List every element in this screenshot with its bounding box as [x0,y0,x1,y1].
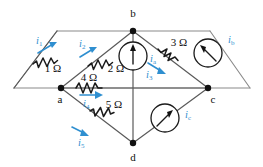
current-source-ic[interactable] [151,104,179,132]
current-label-i5: i5 [78,137,85,150]
node-label-b: b [130,7,136,19]
node-dot-b [130,28,136,34]
current-label-i1: i1 [36,35,43,48]
current-arrow-i5 [72,127,89,136]
node-dot-d [130,140,136,146]
node-dot-c [205,85,211,91]
node-label-a: a [58,93,63,105]
resistor-3ohm [158,49,178,61]
source-label-ib: ib [228,34,235,47]
current-label-i2: i2 [79,38,86,51]
circuit-diagram: b a c d 1 Ω 2 Ω 3 Ω 4 Ω 5 Ω i1 i2 i3 i4 … [0,0,263,167]
resistor-label-1ohm: 1 Ω [45,62,61,74]
current-arrow-i3 [148,63,166,74]
node-dot-a [58,85,64,91]
source-label-ia: ia [150,53,157,66]
resistor-label-2ohm: 2 Ω [108,62,124,74]
resistor-label-4ohm: 4 Ω [81,71,97,83]
current-source-ib[interactable] [194,39,222,67]
source-label-ic: ic [185,109,191,122]
node-label-c: c [211,93,216,105]
circuit-svg: b a c d 1 Ω 2 Ω 3 Ω 4 Ω 5 Ω i1 i2 i3 i4 … [0,0,263,167]
current-label-i4: i4 [83,98,90,111]
resistor-label-3ohm: 3 Ω [171,36,187,48]
resistor-label-5ohm: 5 Ω [106,98,122,110]
node-label-d: d [130,151,136,163]
current-label-i3: i3 [146,69,153,82]
